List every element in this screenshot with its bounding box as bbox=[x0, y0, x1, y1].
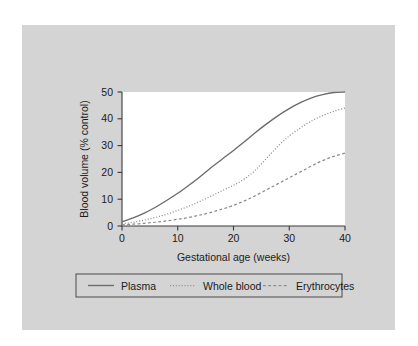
legend-label-whole-blood: Whole blood bbox=[203, 280, 262, 292]
x-tick-label-10: 10 bbox=[172, 232, 184, 244]
x-tick-label-0: 0 bbox=[119, 232, 125, 244]
y-tick-label-10: 10 bbox=[101, 193, 113, 205]
legend: Plasma Whole blood Erythrocytes bbox=[76, 274, 354, 297]
y-axis-title: Blood volume (% control) bbox=[78, 100, 90, 217]
y-tick-label-0: 0 bbox=[107, 220, 113, 232]
x-tick-label-30: 30 bbox=[283, 232, 295, 244]
y-tick-label-50: 50 bbox=[101, 86, 113, 98]
y-tick-label-40: 40 bbox=[101, 112, 113, 124]
y-tick-label-30: 30 bbox=[101, 139, 113, 151]
y-tick-label-20: 20 bbox=[101, 166, 113, 178]
x-tick-label-40: 40 bbox=[339, 232, 351, 244]
plot-area-background bbox=[122, 92, 345, 226]
figure-card: 0 10 20 30 40 50 Blood volume (% control… bbox=[22, 25, 395, 330]
x-tick-label-20: 20 bbox=[228, 232, 240, 244]
x-axis-title: Gestational age (weeks) bbox=[177, 251, 290, 263]
y-axis: 0 10 20 30 40 50 Blood volume (% control… bbox=[78, 86, 122, 232]
x-axis: 0 10 20 30 40 Gestational age (weeks) bbox=[119, 226, 351, 263]
legend-label-erythrocytes: Erythrocytes bbox=[296, 280, 354, 292]
chart-container: 0 10 20 30 40 50 Blood volume (% control… bbox=[22, 25, 395, 330]
line-chart: 0 10 20 30 40 50 Blood volume (% control… bbox=[22, 25, 395, 330]
legend-label-plasma: Plasma bbox=[121, 280, 156, 292]
